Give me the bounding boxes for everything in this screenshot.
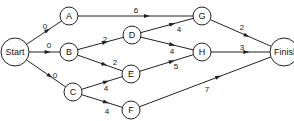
edge-weight-label: 5 <box>174 62 179 71</box>
arrow-icon <box>103 99 109 103</box>
edge-weight-label: 3 <box>240 43 245 52</box>
edge-weight-label: 4 <box>177 25 182 34</box>
edge-start-c <box>27 60 66 87</box>
edge-weight-label: 0 <box>43 22 48 31</box>
node-label: Start <box>5 47 25 57</box>
edge-e-h <box>140 55 194 72</box>
node-a: A <box>60 7 78 25</box>
edge-c-e <box>82 77 123 90</box>
arrow-icon <box>215 76 221 80</box>
node-e: E <box>122 65 140 83</box>
node-c: C <box>64 83 82 101</box>
edge-weight-label: 0 <box>47 41 52 50</box>
node-b: B <box>60 43 78 61</box>
edge-weight-label: 4 <box>104 84 109 93</box>
node-label: B <box>66 47 72 57</box>
edge-weight-label: 6 <box>134 6 139 15</box>
edge-weight-label: 7 <box>205 85 210 94</box>
edge-weight-label: 2 <box>240 23 245 32</box>
arrow-icon <box>45 50 51 54</box>
edge-weight-label: 4 <box>105 107 110 116</box>
edge-weight-label: 4 <box>170 47 175 56</box>
arrow-icon <box>144 14 150 18</box>
arrow-icon <box>243 33 249 37</box>
edge-b-d <box>78 37 124 49</box>
node-label: Finish <box>274 47 294 57</box>
node-label: G <box>198 11 205 21</box>
node-h: H <box>193 43 211 61</box>
edge-d-h <box>141 37 194 50</box>
edge-weight-label: 2 <box>103 35 108 44</box>
node-label: D <box>129 30 136 40</box>
edge-d-g <box>141 18 194 32</box>
node-label: F <box>128 105 134 115</box>
edge-weight-label: 2 <box>113 58 118 67</box>
network-diagram: 00062244445237 StartABCDEFGHFinish <box>0 0 294 121</box>
edges-layer <box>27 14 272 107</box>
arrow-icon <box>243 50 249 54</box>
arrow-icon <box>101 62 107 66</box>
edge-weight-label: 0 <box>53 71 58 80</box>
node-label: A <box>66 11 72 21</box>
edge-f-finish <box>139 57 270 107</box>
node-label: C <box>70 87 77 97</box>
edge-c-f <box>82 95 123 108</box>
node-start: Start <box>1 38 29 66</box>
node-f: F <box>122 101 140 119</box>
arrow-icon <box>169 42 175 46</box>
node-label: E <box>128 69 134 79</box>
node-finish: Finish <box>270 38 294 66</box>
node-d: D <box>123 26 141 44</box>
arrow-icon <box>46 73 52 78</box>
node-label: H <box>199 47 206 57</box>
arrow-icon <box>169 23 175 27</box>
node-g: G <box>193 7 211 25</box>
